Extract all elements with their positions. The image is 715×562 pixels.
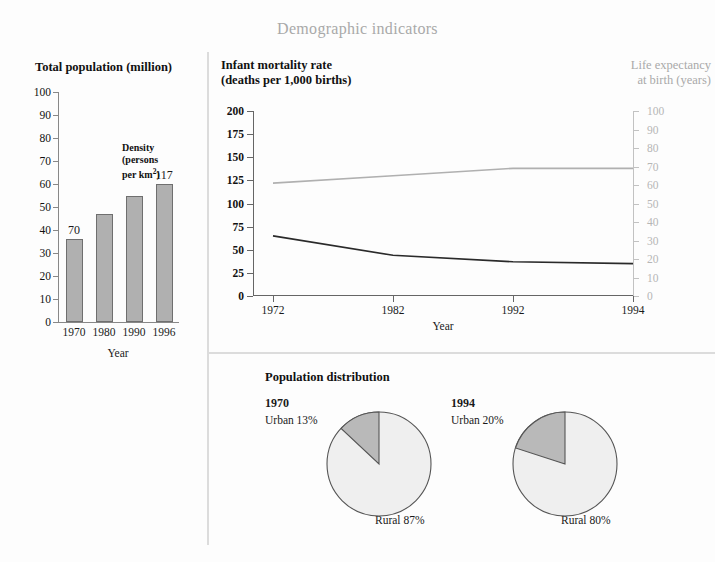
line-right-tick-label: 20 xyxy=(647,253,659,265)
bar-y-tick-label: 80 xyxy=(40,132,52,144)
line-right-tick-label: 70 xyxy=(647,161,659,173)
bar-x-tick-label: 1970 xyxy=(63,326,86,338)
line-chart-title-right: Life expectancy at birth (years) xyxy=(581,58,711,88)
bar-y-tick xyxy=(53,115,59,116)
line-left-tick-label: 200 xyxy=(227,105,244,117)
line-right-tick-label: 80 xyxy=(647,142,659,154)
line-right-tick-label: 40 xyxy=(647,216,659,228)
demographic-indicators-figure: Demographic indicators Total population … xyxy=(0,0,715,562)
bar-y-tick xyxy=(53,299,59,300)
pie-panel-heading: Population distribution xyxy=(265,370,390,385)
line-x-tick xyxy=(513,296,514,302)
line-x-tick-label: 1994 xyxy=(622,304,645,316)
bar-y-tick-label: 50 xyxy=(40,201,52,213)
line-right-tick xyxy=(633,278,639,279)
line-right-tick-label: 50 xyxy=(647,198,659,210)
line-chart-title-left: Infant mortality rate (deaths per 1,000 … xyxy=(221,58,481,88)
line-x-tick xyxy=(273,296,274,302)
bar-y-tick xyxy=(53,322,59,323)
mortality-life-expectancy-line-chart: Infant mortality rate (deaths per 1,000 … xyxy=(209,58,715,352)
bar-y-tick-label: 40 xyxy=(40,224,52,236)
bar xyxy=(66,239,83,322)
pie-urban-label: Urban 13% xyxy=(265,414,318,426)
bar-y-tick xyxy=(53,253,59,254)
line-x-tick-label: 1972 xyxy=(262,304,285,316)
line-right-tick-label: 90 xyxy=(647,124,659,136)
pie-svg xyxy=(509,408,623,522)
life-expectancy-line xyxy=(273,168,633,183)
line-left-tick-label: 50 xyxy=(233,244,245,256)
line-x-tick-label: 1992 xyxy=(502,304,525,316)
bar-y-tick xyxy=(53,138,59,139)
line-right-tick xyxy=(633,130,639,131)
bar xyxy=(156,184,173,322)
bar-value-label: 70 xyxy=(68,223,80,238)
bar xyxy=(126,196,143,323)
total-population-bar-chart: Total population (million) 0102030405060… xyxy=(0,60,207,360)
line-series-svg xyxy=(253,111,633,296)
line-right-tick xyxy=(633,259,639,260)
bar-y-tick xyxy=(53,92,59,93)
line-chart-title-right-line2: at birth (years) xyxy=(581,73,711,88)
pie-svg xyxy=(323,408,437,522)
line-plot-area: 0255075100125150175200 01020304050607080… xyxy=(253,111,633,296)
bar-x-axis-label: Year xyxy=(58,347,178,359)
line-right-tick xyxy=(633,111,639,112)
line-right-tick-label: 30 xyxy=(647,235,659,247)
line-x-tick-label: 1982 xyxy=(382,304,405,316)
density-annotation: Density(personsper km2) xyxy=(122,142,192,181)
bar-x-tick-label: 1980 xyxy=(93,326,116,338)
line-right-tick xyxy=(633,222,639,223)
bar-x-tick-label: 1990 xyxy=(123,326,146,338)
bar-y-tick-label: 30 xyxy=(40,247,52,259)
line-right-tick-label: 0 xyxy=(647,290,653,302)
bar-y-tick xyxy=(53,161,59,162)
pie-year-label: 1994 xyxy=(451,396,475,411)
line-right-tick xyxy=(633,204,639,205)
horizontal-divider xyxy=(209,352,715,354)
bar xyxy=(96,214,113,322)
line-left-tick-label: 75 xyxy=(233,221,245,233)
line-right-tick xyxy=(633,241,639,242)
bar-x-tick-label: 1996 xyxy=(153,326,176,338)
bar-plot-area: 0102030405060708090100 19707019801990199… xyxy=(58,92,179,323)
line-right-tick xyxy=(633,167,639,168)
line-left-tick-label: 100 xyxy=(227,198,244,210)
line-left-tick-label: 25 xyxy=(233,267,245,279)
line-x-tick xyxy=(633,296,634,302)
bar-y-tick-label: 10 xyxy=(40,293,52,305)
line-chart-title-right-line1: Life expectancy xyxy=(581,58,711,73)
pie-urban-label: Urban 20% xyxy=(451,414,504,426)
bar-y-tick-label: 70 xyxy=(40,155,52,167)
line-right-tick xyxy=(633,148,639,149)
line-left-tick-label: 175 xyxy=(227,128,244,140)
bar-y-tick xyxy=(53,207,59,208)
line-left-tick xyxy=(247,296,253,297)
line-right-tick-label: 10 xyxy=(647,272,659,284)
line-x-axis-label: Year xyxy=(253,320,633,332)
bar-y-tick-label: 20 xyxy=(40,270,52,282)
bar-y-tick-label: 90 xyxy=(40,109,52,121)
bar-chart-title: Total population (million) xyxy=(0,60,207,75)
population-distribution-panel: Population distribution 1970Urban 13%Rur… xyxy=(209,356,715,562)
line-left-tick-label: 125 xyxy=(227,174,244,186)
line-right-tick-label: 100 xyxy=(647,105,664,117)
bar-y-tick xyxy=(53,230,59,231)
infant-mortality-line xyxy=(273,236,633,264)
line-left-tick-label: 150 xyxy=(227,151,244,163)
pie-year-label: 1970 xyxy=(265,396,289,411)
line-x-tick xyxy=(393,296,394,302)
bar-y-tick xyxy=(53,184,59,185)
bar-y-tick-label: 0 xyxy=(45,316,51,328)
line-chart-title-left-line1: Infant mortality rate xyxy=(221,58,481,73)
bar-y-tick-label: 60 xyxy=(40,178,52,190)
page-title: Demographic indicators xyxy=(0,20,715,38)
line-right-tick xyxy=(633,185,639,186)
line-left-tick-label: 0 xyxy=(238,290,244,302)
line-right-tick-label: 60 xyxy=(647,179,659,191)
bar-y-tick xyxy=(53,276,59,277)
bar-y-tick-label: 100 xyxy=(34,86,51,98)
line-chart-title-left-line2: (deaths per 1,000 births) xyxy=(221,73,481,88)
